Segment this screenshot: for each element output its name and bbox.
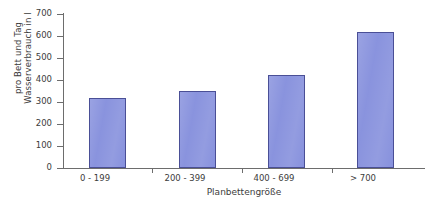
bar-200-399[interactable] — [179, 91, 216, 168]
x-tick-label-400-699: 400 - 699 — [233, 173, 315, 183]
y-tick-label-500: 500 — [12, 53, 52, 62]
y-axis-title: Wasserverbrauch in l pro Bett und Tag — [8, 0, 38, 133]
bar-gt-700[interactable] — [357, 32, 394, 168]
bar-chart-figure: Wasserverbrauch in l pro Bett und Tag 70… — [0, 0, 440, 205]
y-tick-label-400: 400 — [12, 75, 52, 84]
y-tick-label-200: 200 — [12, 119, 52, 128]
y-tick-label-100: 100 — [12, 141, 52, 150]
bar-0-199[interactable] — [89, 98, 126, 168]
x-tick-label-gt-700: > 700 — [322, 173, 404, 183]
y-tick-label-300: 300 — [12, 97, 52, 106]
x-tick-label-200-399: 200 - 399 — [144, 173, 226, 183]
y-tick-label-600: 600 — [12, 31, 52, 40]
y-tick-label-0: 0 — [12, 163, 52, 172]
x-tick-label-0-199: 0 - 199 — [54, 173, 136, 183]
plot-area — [63, 14, 425, 168]
y-tick-label-700: 700 — [12, 9, 52, 18]
bar-400-699[interactable] — [268, 75, 305, 169]
x-axis-line — [63, 168, 425, 169]
x-axis-title: Planbettengröße — [63, 187, 425, 198]
